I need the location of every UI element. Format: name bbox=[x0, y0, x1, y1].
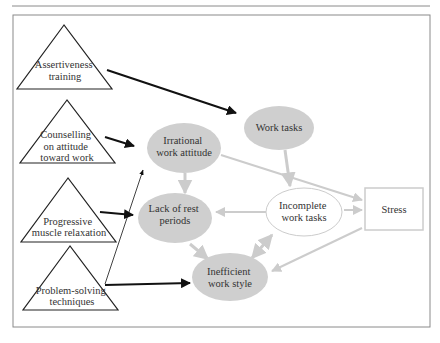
svg-text:Stress: Stress bbox=[381, 204, 406, 215]
arrow-counselling-to-irrational bbox=[105, 137, 134, 146]
factor-irrational-work-attitude: Irrational work attitude bbox=[147, 123, 221, 173]
arrow-lack-of-rest-to-inefficient bbox=[190, 244, 208, 259]
factor-inefficient-work-style: Inefficient work style bbox=[192, 253, 268, 301]
outcome-stress: Stress bbox=[365, 188, 423, 230]
arrow-work-tasks-to-incomplete bbox=[285, 150, 290, 186]
arrow-assertiveness-to-work-tasks bbox=[107, 70, 236, 113]
svg-text:Counselling on attitude: Counselling on attitude toward work bbox=[40, 129, 94, 163]
arrow-inefficient-incomplete bbox=[252, 235, 272, 258]
intervention-assertiveness: Assertiveness training bbox=[17, 25, 112, 89]
svg-text:Irrational work attitude: Irrational work attitude bbox=[156, 135, 212, 158]
intervention-problem-solving: Problem-solving techniques bbox=[23, 246, 118, 310]
svg-text:Work tasks: Work tasks bbox=[256, 122, 303, 133]
arrow-problem-solving-to-irrational bbox=[105, 170, 143, 284]
stress-intervention-diagram: Assertiveness training Counselling on at… bbox=[0, 0, 440, 343]
ellipse-shape bbox=[192, 253, 268, 301]
arrow-problem-solving-to-inefficient bbox=[105, 283, 190, 285]
factor-work-tasks: Work tasks bbox=[244, 106, 314, 150]
factor-lack-of-rest-periods: Lack of rest periods bbox=[138, 193, 212, 243]
intervention-progressive: Progressive muscle relaxation bbox=[21, 178, 116, 242]
svg-text:Incomplete work tasks: Incomplete work tasks bbox=[279, 200, 329, 223]
intervention-counselling: Counselling on attitude toward work bbox=[20, 100, 115, 163]
factor-incomplete-work-tasks: Incomplete work tasks bbox=[266, 188, 342, 236]
svg-text:Inefficient work style: Inefficient work style bbox=[207, 266, 253, 289]
intervention-arrows bbox=[100, 70, 236, 285]
